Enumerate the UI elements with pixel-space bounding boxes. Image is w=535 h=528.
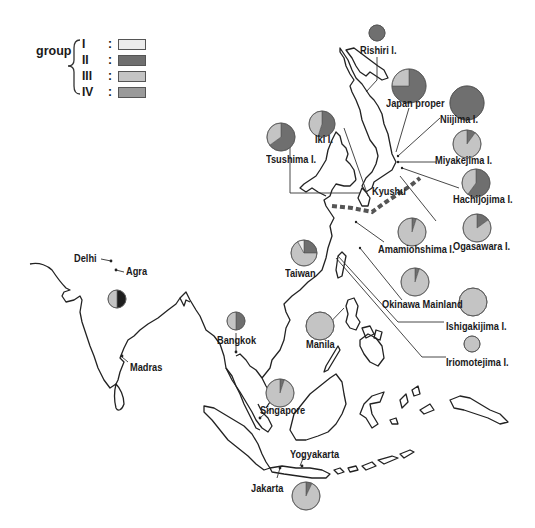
legend-label: III — [82, 69, 108, 83]
legend-swatch — [118, 87, 146, 98]
pie-iriomotejima-i — [464, 336, 480, 352]
pie-taiwan — [291, 240, 317, 266]
label-japan-proper: Japan proper — [386, 97, 445, 109]
legend-item-group-1: I : — [82, 37, 146, 51]
legend-item-group-2: II : — [82, 53, 146, 67]
label-okinawa: Okinawa Mainland — [382, 298, 463, 310]
label-tsushima: Tsushima I. — [266, 153, 316, 165]
legend-label: I — [82, 37, 108, 51]
sri-lanka — [115, 384, 125, 410]
legend-swatch — [118, 71, 146, 82]
japan-honshu — [340, 48, 396, 192]
bengal-burma-coast — [180, 292, 260, 430]
legend-item-group-3: III : — [82, 69, 146, 83]
pie-agra — [108, 290, 126, 308]
pie-amamiohshima-i — [398, 218, 426, 246]
label-bangkok: Bangkok — [217, 334, 256, 346]
label-agra: Agra — [126, 265, 147, 277]
new-guinea — [450, 396, 508, 424]
label-rishiri: Rishiri I. — [360, 44, 396, 56]
label-singapore: Singapore — [260, 404, 305, 416]
legend-swatch — [118, 55, 146, 66]
label-delhi: Delhi — [74, 252, 97, 264]
label-hachijojima: Hachijojima I. — [453, 193, 513, 205]
label-kyushu: Kyushu — [372, 185, 406, 197]
taiwan-island — [336, 252, 346, 278]
legend-colon: : — [108, 53, 118, 67]
legend-swatch — [118, 39, 146, 50]
label-yogyakarta: Yogyakarta — [290, 448, 339, 460]
pie-singapore — [266, 379, 294, 407]
legend-colon: : — [108, 85, 118, 99]
pie-tsushima-i — [267, 123, 295, 151]
label-ishigakijima: Ishigakijima I. — [446, 320, 507, 332]
map-canvas — [0, 0, 535, 528]
india-coast — [30, 263, 190, 388]
pie-ishigakijima-i — [459, 288, 487, 316]
luzon — [346, 298, 360, 330]
legend-title: group — [36, 44, 71, 58]
pie-jakarta — [292, 482, 320, 510]
legend-colon: : — [108, 37, 118, 51]
legend-colon: : — [108, 69, 118, 83]
visayas — [362, 326, 382, 340]
label-manila: Manila — [306, 338, 335, 350]
lesser-sunda — [334, 450, 414, 474]
pie-rishiri-i — [369, 25, 385, 41]
label-taiwan: Taiwan — [285, 267, 316, 279]
label-niijima: Niijima I. — [440, 113, 478, 125]
pie-manila — [306, 312, 334, 340]
label-jakarta: Jakarta — [251, 482, 283, 494]
label-ogasawara: Ogasawara I. — [453, 240, 510, 252]
pie-bangkok — [227, 312, 245, 330]
legend-item-group-4: IV : — [82, 85, 146, 99]
city-dots — [110, 155, 404, 470]
label-miyakejima: Miyakejima I. — [435, 154, 492, 166]
label-amamiohshima: Amamiohshima I. — [378, 243, 455, 255]
legend-label: IV — [82, 85, 108, 99]
thailand-coast — [236, 354, 270, 408]
pie-ogasawara-i — [463, 214, 491, 242]
legend-label: II — [82, 53, 108, 67]
maluku — [390, 386, 434, 424]
pie-okinawa-mainland — [401, 268, 429, 296]
label-madras: Madras — [130, 361, 162, 373]
sulawesi — [360, 392, 384, 428]
label-iki: Iki I. — [315, 133, 333, 145]
label-iriomotejima: Iriomotejima I. — [446, 356, 509, 368]
